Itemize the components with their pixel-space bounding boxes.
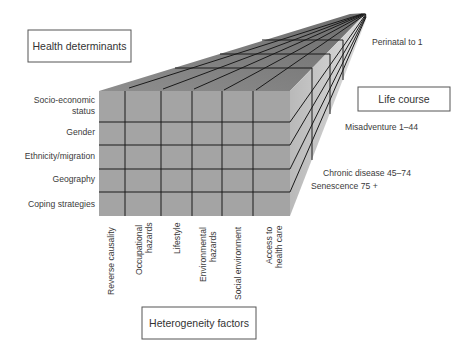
label-gender: Gender bbox=[66, 127, 95, 137]
label-environmental: Environmental bbox=[198, 227, 208, 282]
health-determinant-labels: Socio-economic status Gender Ethnicity/m… bbox=[25, 95, 96, 209]
label-occupational-hazards: hazards bbox=[144, 222, 154, 253]
cube-front-face bbox=[99, 91, 290, 216]
label-socio-economic: Socio-economic bbox=[34, 95, 96, 105]
label-ethnicity-migration: Ethnicity/migration bbox=[25, 151, 95, 161]
label-coping-strategies: Coping strategies bbox=[28, 199, 95, 209]
health-determinants-cube-diagram: Health determinants Life course Heteroge… bbox=[0, 0, 457, 355]
health-determinants-title: Health determinants bbox=[33, 40, 127, 52]
label-perinatal: Perinatal to 1 bbox=[372, 37, 423, 47]
label-access-to: Access to bbox=[264, 227, 274, 264]
label-misadventure: Misadventure 1–44 bbox=[345, 122, 418, 132]
heterogeneity-factors-title: Heterogeneity factors bbox=[149, 317, 249, 329]
label-reverse-causality: Reverse causality bbox=[106, 226, 116, 295]
label-occupational: Occupational bbox=[134, 225, 144, 275]
label-geography: Geography bbox=[52, 174, 95, 184]
heterogeneity-factor-labels: Reverse causality Occupational hazards L… bbox=[106, 222, 284, 300]
label-health-care: health care bbox=[274, 225, 284, 268]
label-social-environment: Social environment bbox=[233, 226, 243, 300]
life-course-box: Life course bbox=[358, 87, 450, 111]
label-environmental-hazards: hazards bbox=[208, 231, 218, 262]
life-course-title: Life course bbox=[378, 93, 430, 105]
heterogeneity-factors-box: Heterogeneity factors bbox=[142, 307, 256, 339]
health-determinants-box: Health determinants bbox=[28, 30, 131, 62]
label-senescence: Senescence 75 + bbox=[311, 181, 378, 191]
label-status: status bbox=[72, 106, 95, 116]
label-lifestyle: Lifestyle bbox=[172, 222, 182, 254]
label-chronic-disease: Chronic disease 45–74 bbox=[323, 168, 411, 178]
